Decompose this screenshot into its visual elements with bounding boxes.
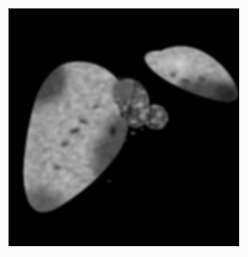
specimen-render bbox=[9, 9, 239, 246]
image-canvas[interactable] bbox=[9, 9, 239, 246]
frame-rule-right bbox=[239, 8, 240, 246]
specimen-image-viewer[interactable] bbox=[0, 0, 248, 257]
frame-rule-bottom bbox=[8, 246, 240, 247]
